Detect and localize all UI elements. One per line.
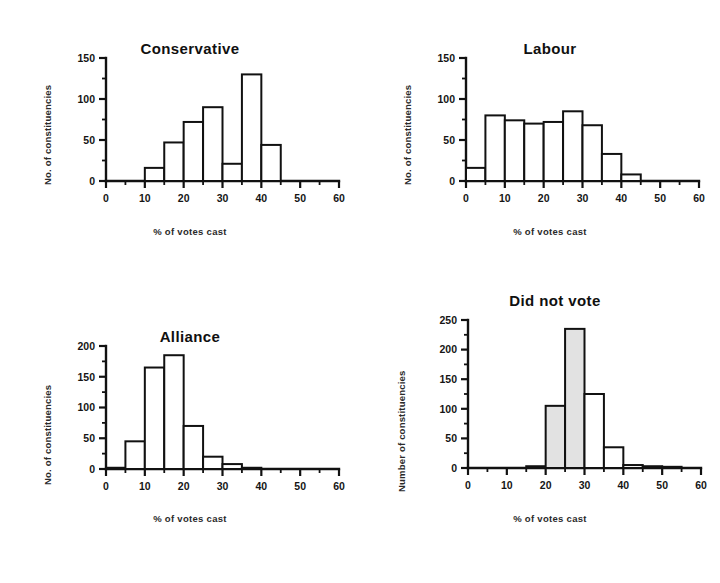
- histogram-bar: [242, 74, 261, 181]
- histogram-bar: [223, 164, 242, 181]
- y-tick-label-50: 50: [83, 134, 95, 146]
- y-tick-label-0: 0: [89, 463, 95, 475]
- y-axis-label-conservative: No. of constituencies: [42, 85, 53, 185]
- plot-svg-alliance: 0501001502000102030405060: [60, 338, 345, 503]
- histogram-bar: [524, 124, 543, 181]
- x-tick-label-30: 30: [577, 192, 589, 204]
- x-tick-label-0: 0: [465, 479, 471, 491]
- x-axis-label-didnotvote: % of votes cast: [480, 513, 620, 524]
- x-tick-label-60: 60: [333, 480, 345, 492]
- histogram-bar: [621, 174, 640, 181]
- histogram-bar: [203, 107, 222, 181]
- histogram-bar: [242, 468, 261, 469]
- histogram-bar: [643, 466, 662, 468]
- histogram-bar: [565, 329, 584, 468]
- plot-svg-didnotvote: 0501001502002500102030405060: [422, 312, 707, 502]
- x-tick-label-50: 50: [654, 192, 666, 204]
- histogram-bar: [485, 115, 504, 181]
- histogram-bar: [125, 441, 144, 469]
- histogram-figure: Conservative No. of constituencies % of …: [0, 0, 720, 583]
- plot-area-conservative: 0501001500102030405060: [60, 50, 345, 215]
- plot-area-didnotvote: 0501001502002500102030405060: [422, 312, 707, 502]
- x-tick-label-0: 0: [103, 192, 109, 204]
- x-tick-label-20: 20: [178, 480, 190, 492]
- histogram-bar: [604, 447, 623, 468]
- x-tick-label-30: 30: [217, 480, 229, 492]
- y-tick-label-50: 50: [443, 134, 455, 146]
- panel-alliance: Alliance No. of constituencies % of vote…: [0, 270, 360, 561]
- histogram-bar: [662, 467, 681, 468]
- x-tick-label-60: 60: [693, 192, 705, 204]
- plot-svg-conservative: 0501001500102030405060: [60, 50, 345, 215]
- x-tick-label-20: 20: [540, 479, 552, 491]
- y-tick-label-50: 50: [83, 432, 95, 444]
- x-tick-label-30: 30: [217, 192, 229, 204]
- histogram-bar: [583, 125, 602, 181]
- y-axis-label-didnotvote: Number of constituencies: [396, 371, 407, 492]
- histogram-bar: [145, 168, 164, 181]
- y-tick-label-0: 0: [89, 175, 95, 187]
- x-tick-label-50: 50: [656, 479, 668, 491]
- y-tick-label-150: 150: [77, 371, 95, 383]
- y-tick-label-100: 100: [77, 401, 95, 413]
- panel-didnotvote: Did not vote Number of constituencies % …: [360, 270, 720, 561]
- y-tick-label-200: 200: [439, 343, 457, 355]
- x-axis-label-conservative: % of votes cast: [120, 226, 260, 237]
- histogram-bar: [223, 464, 242, 469]
- plot-area-alliance: 0501001502000102030405060: [60, 338, 345, 503]
- histogram-bar: [623, 465, 642, 468]
- y-tick-label-100: 100: [439, 403, 457, 415]
- plot-area-labour: 0501001500102030405060: [420, 50, 705, 215]
- x-tick-label-10: 10: [139, 192, 151, 204]
- histogram-bar: [203, 457, 222, 469]
- x-tick-label-60: 60: [695, 479, 707, 491]
- histogram-bar: [106, 468, 125, 469]
- x-tick-label-60: 60: [333, 192, 345, 204]
- x-tick-label-0: 0: [463, 192, 469, 204]
- histogram-bar: [505, 120, 524, 181]
- x-tick-label-30: 30: [579, 479, 591, 491]
- histogram-bar: [602, 154, 621, 181]
- histogram-bar: [526, 466, 545, 468]
- x-axis-label-labour: % of votes cast: [480, 226, 620, 237]
- y-tick-label-100: 100: [77, 93, 95, 105]
- y-tick-label-200: 200: [77, 340, 95, 352]
- histogram-bar: [184, 426, 203, 469]
- histogram-bar: [164, 142, 183, 181]
- x-tick-label-10: 10: [501, 479, 513, 491]
- x-tick-label-40: 40: [255, 480, 267, 492]
- histogram-bar: [563, 111, 582, 181]
- y-tick-label-0: 0: [451, 462, 457, 474]
- x-tick-label-20: 20: [538, 192, 550, 204]
- y-axis-label-labour: No. of constituencies: [402, 85, 413, 185]
- y-tick-label-0: 0: [449, 175, 455, 187]
- x-tick-label-10: 10: [139, 480, 151, 492]
- x-tick-label-40: 40: [617, 479, 629, 491]
- histogram-bar: [585, 394, 604, 468]
- y-tick-label-150: 150: [77, 52, 95, 64]
- panel-labour: Labour No. of constituencies % of votes …: [360, 0, 720, 291]
- y-tick-label-150: 150: [439, 373, 457, 385]
- x-tick-label-50: 50: [294, 480, 306, 492]
- x-tick-label-10: 10: [499, 192, 511, 204]
- histogram-bar: [466, 168, 485, 181]
- histogram-bar: [164, 355, 183, 469]
- y-tick-label-50: 50: [445, 432, 457, 444]
- x-tick-label-0: 0: [103, 480, 109, 492]
- panel-conservative: Conservative No. of constituencies % of …: [0, 0, 360, 291]
- histogram-bar: [184, 122, 203, 181]
- x-tick-label-50: 50: [294, 192, 306, 204]
- y-tick-label-150: 150: [437, 52, 455, 64]
- x-tick-label-40: 40: [255, 192, 267, 204]
- y-tick-label-250: 250: [439, 314, 457, 326]
- histogram-bar: [261, 145, 280, 181]
- plot-svg-labour: 0501001500102030405060: [420, 50, 705, 215]
- x-tick-label-20: 20: [178, 192, 190, 204]
- y-tick-label-100: 100: [437, 93, 455, 105]
- y-axis-label-alliance: No. of constituencies: [42, 385, 53, 485]
- x-axis-label-alliance: % of votes cast: [120, 513, 260, 524]
- histogram-bar: [145, 368, 164, 469]
- x-tick-label-40: 40: [615, 192, 627, 204]
- histogram-bar: [546, 406, 565, 468]
- chart-title-didnotvote: Did not vote: [470, 292, 640, 309]
